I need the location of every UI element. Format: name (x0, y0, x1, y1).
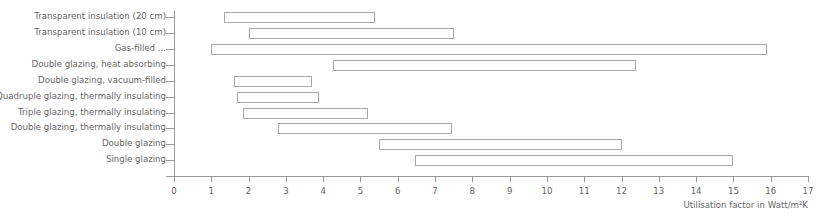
x-tick-label: 10 (537, 186, 557, 196)
range-bar (237, 92, 319, 103)
x-tick (584, 176, 585, 182)
y-tick (166, 128, 174, 129)
category-label: Double glazing, vacuum-filled (38, 75, 166, 85)
range-bar (211, 44, 767, 55)
x-tick (733, 176, 734, 182)
x-tick (771, 176, 772, 182)
category-label: Double glazing, thermally insulating (11, 122, 166, 132)
category-label: Single glazing (106, 154, 166, 164)
range-bar (224, 12, 375, 23)
x-tick-label: 11 (574, 186, 594, 196)
category-label: Gas-filled ... (115, 43, 166, 53)
x-tick (323, 176, 324, 182)
y-tick (166, 144, 174, 145)
y-tick (166, 160, 174, 161)
x-tick (547, 176, 548, 182)
x-tick-label: 5 (350, 186, 370, 196)
x-axis-label: Utilisation factor in Watt/m²K (683, 200, 808, 210)
x-tick-label: 0 (164, 186, 184, 196)
x-tick-label: 9 (500, 186, 520, 196)
x-tick-label: 17 (798, 186, 818, 196)
category-label: Double glazing (102, 138, 166, 148)
category-label: Quadruple glazing, thermally insulating (0, 91, 166, 101)
x-tick (174, 176, 175, 182)
x-tick (249, 176, 250, 182)
x-tick (622, 176, 623, 182)
x-tick-label: 7 (425, 186, 445, 196)
x-tick (360, 176, 361, 182)
x-tick-label: 4 (313, 186, 333, 196)
y-tick (166, 49, 174, 50)
x-tick-label: 3 (276, 186, 296, 196)
x-tick-label: 14 (686, 186, 706, 196)
x-tick (472, 176, 473, 182)
category-label: Transparent insulation (10 cm) (34, 27, 166, 37)
range-bar (243, 108, 368, 119)
x-tick-label: 12 (612, 186, 632, 196)
category-label: Double glazing, heat absorbing (32, 59, 166, 69)
y-tick (166, 33, 174, 34)
x-tick-label: 15 (723, 186, 743, 196)
x-tick (211, 176, 212, 182)
range-bar (415, 155, 734, 166)
y-axis (174, 11, 175, 178)
x-tick (510, 176, 511, 182)
x-tick (696, 176, 697, 182)
category-label: Transparent insulation (20 cm) (34, 11, 166, 21)
range-bar (234, 76, 312, 87)
y-tick (166, 81, 174, 82)
range-bar (333, 60, 637, 71)
x-tick-label: 2 (239, 186, 259, 196)
y-tick (166, 65, 174, 66)
range-bar (249, 28, 454, 39)
x-tick-label: 1 (201, 186, 221, 196)
x-tick (435, 176, 436, 182)
y-tick (166, 113, 174, 114)
range-bar (379, 139, 621, 150)
x-tick (659, 176, 660, 182)
x-tick (808, 176, 809, 182)
x-tick-label: 6 (388, 186, 408, 196)
y-tick (166, 17, 174, 18)
category-label: Triple glazing, thermally insulating (18, 107, 166, 117)
range-bar-chart: Transparent insulation (20 cm)Transparen… (0, 0, 821, 218)
range-bar (278, 123, 451, 134)
x-axis (166, 176, 809, 177)
x-tick-label: 16 (761, 186, 781, 196)
y-tick (166, 97, 174, 98)
x-tick-label: 13 (649, 186, 669, 196)
x-tick-label: 8 (462, 186, 482, 196)
x-tick (286, 176, 287, 182)
x-tick (398, 176, 399, 182)
